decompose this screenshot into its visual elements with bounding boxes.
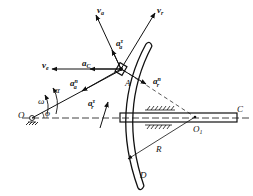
label-aa-tau: aτa xyxy=(116,38,124,50)
label-ar-n: anr xyxy=(153,76,162,88)
label-D: D xyxy=(139,170,147,180)
label-omega: ω xyxy=(38,96,44,106)
label-ac: aC xyxy=(82,58,92,69)
label-O: O xyxy=(18,110,25,120)
label-ve: ve xyxy=(42,60,49,71)
label-A: A xyxy=(124,78,131,88)
label-phi: φ xyxy=(45,108,50,118)
label-ar-tau: aτr xyxy=(88,98,96,110)
guide-top xyxy=(145,106,175,110)
phi-arc xyxy=(42,112,44,118)
vector-aa-n xyxy=(82,69,121,91)
vector-ar-tau xyxy=(100,102,108,128)
pivot-O xyxy=(26,116,38,126)
curved-arm xyxy=(126,42,152,189)
label-alpha: α xyxy=(55,85,60,95)
label-C: C xyxy=(237,104,244,114)
label-va: va xyxy=(97,5,104,16)
guide-bottom xyxy=(145,125,172,129)
radius-R xyxy=(128,117,195,159)
label-O1: O1 xyxy=(193,124,203,135)
mechanism-diagram: va vr ve aC aτa ana anr aτr A O ω α φ C … xyxy=(0,0,253,196)
vector-aa-tau xyxy=(112,50,121,69)
slider-bar xyxy=(120,113,237,122)
label-aa-n: ana xyxy=(70,78,79,90)
label-vr: vr xyxy=(157,5,164,16)
label-R: R xyxy=(155,144,162,154)
